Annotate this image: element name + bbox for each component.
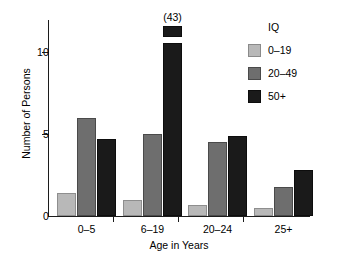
bar-chart: 10 5 0 Number of Persons Age in Years (4… <box>0 0 350 259</box>
bar-0-5-iq-0-19 <box>57 193 76 216</box>
x-tick-sep-3 <box>243 217 244 222</box>
y-tick-label-0: 0 <box>13 211 49 222</box>
x-axis-title: Age in Years <box>48 240 310 251</box>
bar-20-24-iq-0-19 <box>188 205 207 216</box>
legend-swatch-0-19 <box>248 44 261 57</box>
x-tick-sep-2 <box>178 217 179 222</box>
bar-20-24-iq-20-49 <box>208 142 227 216</box>
legend-label-20-49: 20–49 <box>268 68 297 79</box>
bar-25-plus-iq-50-plus <box>294 170 313 216</box>
bar-6-19-iq-20-49 <box>143 134 162 216</box>
bar-value-label-43: (43) <box>147 12 198 23</box>
bar-6-19-iq-0-19 <box>123 200 142 216</box>
x-group-label-6-19: 6–19 <box>123 224 182 235</box>
bar-6-19-iq-50-plus-broken-cap <box>163 26 182 37</box>
legend-label-50-plus: 50+ <box>268 91 286 102</box>
y-axis-title: Number of Persons <box>21 44 32 184</box>
legend-title: IQ <box>268 22 279 33</box>
x-group-label-25-plus: 25+ <box>254 224 313 235</box>
bar-0-5-iq-50-plus <box>97 139 116 216</box>
x-tick-sep-1 <box>113 217 114 222</box>
legend-label-0-19: 0–19 <box>268 45 291 56</box>
bar-25-plus-iq-0-19 <box>254 208 273 216</box>
x-group-label-20-24: 20–24 <box>188 224 247 235</box>
bar-6-19-iq-50-plus <box>163 43 182 216</box>
bar-25-plus-iq-20-49 <box>274 187 293 216</box>
x-group-label-0-5: 0–5 <box>57 224 116 235</box>
bar-0-5-iq-20-49 <box>77 118 96 216</box>
legend-swatch-20-49 <box>248 67 261 80</box>
bar-20-24-iq-50-plus <box>228 136 247 216</box>
legend-swatch-50-plus <box>248 90 261 103</box>
